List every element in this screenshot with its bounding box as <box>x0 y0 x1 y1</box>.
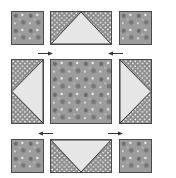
arrow-right-icon <box>108 131 123 136</box>
arrow-right-icon <box>38 51 53 56</box>
arrow-left-icon <box>108 51 123 56</box>
corner-square-top-right <box>119 11 152 45</box>
corner-square-top-left <box>11 11 44 45</box>
corner-square-bottom-left <box>11 139 44 173</box>
center-square <box>50 59 112 124</box>
flying-geese-right <box>119 59 152 124</box>
flying-geese-bottom <box>50 139 112 173</box>
flying-geese-top <box>50 11 112 45</box>
flying-geese-left <box>11 59 44 124</box>
corner-square-bottom-right <box>119 139 152 173</box>
arrow-left-icon <box>38 131 53 136</box>
